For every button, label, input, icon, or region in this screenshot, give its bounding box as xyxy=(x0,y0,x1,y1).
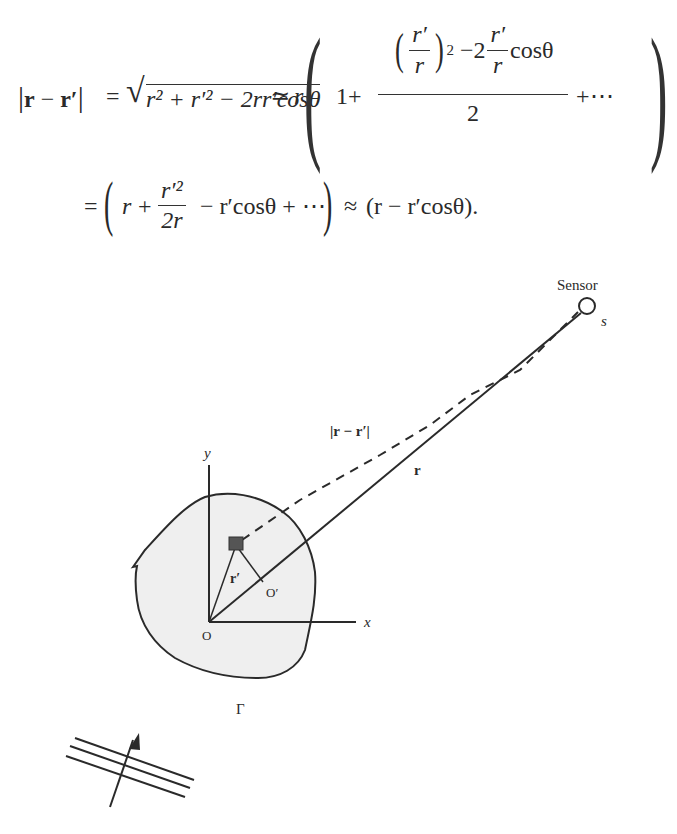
r-vector-line xyxy=(209,313,581,622)
source-element-icon xyxy=(229,537,243,550)
label-origin: O xyxy=(202,628,211,643)
label-x: x xyxy=(363,614,371,630)
label-r-minus-rprime: |r − r′| xyxy=(330,423,370,439)
label-r: r xyxy=(414,462,421,478)
sensor-icon xyxy=(579,298,595,314)
label-r-prime: r′ xyxy=(230,571,240,586)
r-minus-rprime-dashed-line xyxy=(242,312,578,540)
label-y: y xyxy=(202,445,211,461)
label-s: s xyxy=(601,313,607,329)
region-gamma xyxy=(133,494,315,678)
label-gamma: Γ xyxy=(236,701,245,717)
label-sensor: Sensor xyxy=(557,277,598,293)
label-o-prime: O′ xyxy=(266,585,278,600)
geometry-diagram: Sensor s |r − r′| r y x O O′ r′ Γ xyxy=(0,0,677,834)
wave-direction-arrow-icon xyxy=(129,733,140,750)
